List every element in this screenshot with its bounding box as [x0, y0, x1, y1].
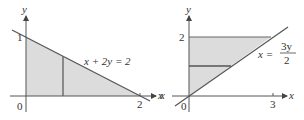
x-tick-label: 3 [270, 98, 276, 110]
y-tick-label: 1 [17, 31, 23, 43]
curve-label: x + 2y = 2 [83, 55, 131, 67]
y-axis-label: y [185, 3, 191, 15]
diagram-canvas: y x 1 0 2 x + 2y = 2 y x x 2 0 3 x = 3y … [0, 0, 304, 120]
left-figure: y x 1 0 2 x + 2y = 2 [10, 3, 163, 112]
curve-label-numerator: 3y [281, 40, 293, 52]
x-tick-label: 2 [137, 98, 143, 110]
x-axis-label: x [288, 89, 294, 101]
origin-label: 0 [17, 100, 23, 112]
curve-label-denominator: 2 [284, 54, 290, 66]
y-tick-label: 2 [179, 31, 185, 43]
y-axis-label: y [21, 3, 27, 15]
x-axis-left-label: x [159, 89, 165, 101]
right-figure: y x x 2 0 3 x = 3y 2 [159, 3, 296, 112]
curve-label-lhs: x = [257, 48, 273, 60]
origin-label: 0 [181, 100, 187, 112]
